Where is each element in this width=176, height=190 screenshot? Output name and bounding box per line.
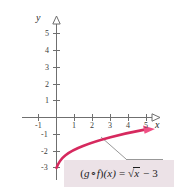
equation-radicand: x: [133, 167, 140, 180]
equation-minus-three: − 3: [143, 167, 158, 179]
y-tick-label-2: 2: [45, 81, 49, 89]
y-tick-label-5: 5: [45, 30, 49, 38]
leader-line: [101, 137, 126, 159]
equation-text: (g∘f)(x) = √x − 3: [80, 167, 158, 180]
y-axis-label: y: [36, 13, 40, 23]
x-tick-label-4: 4: [126, 122, 130, 130]
y-tick-label--3: -3: [41, 164, 48, 172]
y-tick-label--2: -2: [41, 148, 48, 156]
x-tick-label-5: 5: [144, 122, 148, 130]
y-tick-label-3: 3: [45, 64, 49, 72]
x-tick-label--1: -1: [35, 122, 42, 130]
x-tick-label-1: 1: [72, 122, 76, 130]
x-axis-label: x: [155, 120, 159, 130]
y-tick-label--1: -1: [41, 131, 48, 139]
equation-f-symbol: f: [97, 167, 100, 179]
equation-ring-icon: ∘: [90, 167, 97, 179]
equation-of-x: (x): [104, 167, 117, 179]
equation-equals: =: [119, 167, 125, 179]
graph-figure: y x -1 1 2 3 4 5 5 4 3 2 1 -1 -2 -3 (g∘f…: [0, 0, 176, 190]
y-tick-label-4: 4: [45, 47, 49, 55]
y-tick-label-1: 1: [45, 97, 49, 105]
y-axis-arrow: [53, 16, 60, 24]
x-tick-label-3: 3: [108, 122, 112, 130]
x-tick-label-2: 2: [90, 122, 94, 130]
equation-label-box: (g∘f)(x) = √x − 3: [64, 160, 174, 187]
